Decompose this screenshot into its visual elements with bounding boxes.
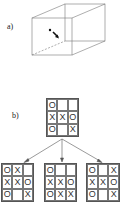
cube-front-face <box>32 18 72 55</box>
board-cell: X <box>2 176 12 188</box>
board-cell: O <box>45 189 55 201</box>
board-cell: X <box>98 176 109 188</box>
board-cell: O <box>87 189 98 201</box>
board-cell <box>57 124 67 136</box>
board-cell: O <box>23 176 33 188</box>
board-cell: X <box>87 176 98 188</box>
board-cell <box>66 164 76 176</box>
board-cell: X <box>45 176 55 188</box>
cube <box>32 4 105 55</box>
board-cell: X <box>12 176 22 188</box>
board-cell: O <box>66 176 76 188</box>
board-cell: O <box>87 164 98 176</box>
board-cell: O <box>2 164 12 176</box>
board-cell <box>55 164 65 176</box>
board-cell: X <box>66 189 76 201</box>
board-cell: X <box>47 111 57 123</box>
root-board: OXXOOX <box>46 98 79 137</box>
board-cell: O <box>47 99 57 111</box>
child-board-3: OXXXOOX <box>86 163 120 202</box>
board-cell: O <box>2 189 12 201</box>
board-cell <box>12 189 22 201</box>
board-cell: O <box>45 164 55 176</box>
board-cell: X <box>57 111 67 123</box>
board-cell: O <box>108 176 119 188</box>
particle-dot <box>49 29 51 31</box>
board-cell <box>57 99 67 111</box>
board-cell: X <box>12 164 22 176</box>
board-cell: O <box>68 111 78 123</box>
child-board-2: OXXOOXX <box>44 163 77 202</box>
board-cell <box>68 99 78 111</box>
tree-arrows <box>24 139 102 163</box>
board-cell: X <box>68 124 78 136</box>
board-cell: X <box>23 189 33 201</box>
board-cell <box>98 189 109 201</box>
board-cell: X <box>55 189 65 201</box>
board-cell: O <box>47 124 57 136</box>
board-cell <box>98 164 109 176</box>
board-cell: X <box>55 176 65 188</box>
child-board-1: OXXXOOX <box>1 163 34 202</box>
board-cell: X <box>108 189 119 201</box>
cube-back-face <box>65 4 105 41</box>
board-cell: X <box>108 164 119 176</box>
particle <box>49 29 59 39</box>
board-cell <box>23 164 33 176</box>
